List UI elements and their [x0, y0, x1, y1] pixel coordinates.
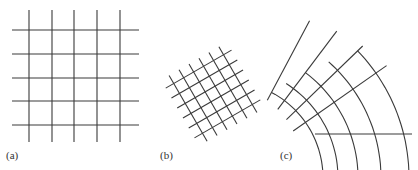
radial-grid-line: [278, 31, 337, 109]
curvilinear-grid-panel-c: [267, 21, 412, 170]
panel-label-b: (b): [160, 150, 173, 161]
arc-grid-line: [329, 62, 381, 170]
square-grid-panel-a: [12, 10, 139, 142]
figure-canvas: [0, 0, 418, 170]
arc-grid-line: [305, 73, 358, 170]
radial-grid-line: [267, 21, 309, 100]
panel-label-c: (c): [280, 150, 292, 161]
radial-grid-line: [293, 66, 386, 131]
rotated-grid-panel-b: [166, 47, 261, 142]
panel-label-a: (a): [6, 150, 18, 161]
